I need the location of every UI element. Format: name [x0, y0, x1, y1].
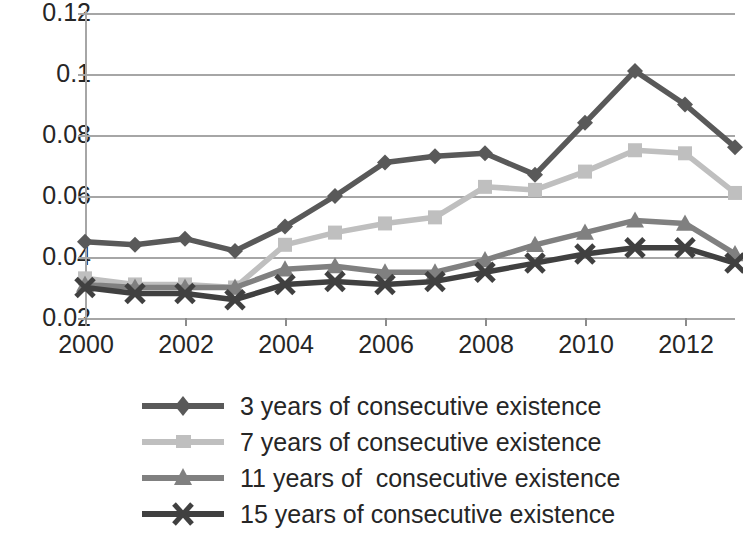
x-axis-label-2010: 2010 — [541, 330, 631, 358]
x-tick-2006 — [385, 318, 387, 326]
x-axis-label-2012: 2012 — [641, 330, 731, 358]
series-plot — [85, 13, 735, 318]
plot-area — [85, 13, 735, 318]
legend-item-2: 11 years of consecutive existence — [140, 460, 700, 496]
legend-marker-triangle-icon — [140, 463, 226, 493]
x-tick-2008 — [485, 318, 487, 326]
x-tick-2002 — [185, 318, 187, 326]
legend-item-0: 3 years of consecutive existence — [140, 388, 700, 424]
legend-item-3: 15 years of consecutive existence — [140, 496, 700, 532]
x-axis-label-2000: 2000 — [41, 330, 131, 358]
x-axis-label-2008: 2008 — [441, 330, 531, 358]
x-tick-2000 — [85, 318, 87, 326]
legend-label-1: 7 years of consecutive existence — [240, 427, 601, 457]
x-axis-label-2004: 2004 — [241, 330, 331, 358]
x-tick-2010 — [585, 318, 587, 326]
legend-item-1: 7 years of consecutive existence — [140, 424, 700, 460]
x-tick-2012 — [685, 318, 687, 326]
legend-label-0: 3 years of consecutive existence — [240, 391, 601, 421]
legend-label-2: 11 years of consecutive existence — [240, 463, 620, 493]
legend-marker-square-icon — [140, 427, 226, 457]
chart-legend: 3 years of consecutive existence 7 years… — [140, 388, 700, 532]
x-axis-label-2002: 2002 — [141, 330, 231, 358]
legend-label-3: 15 years of consecutive existence — [240, 499, 615, 529]
legend-marker-diamond-icon — [140, 391, 226, 421]
line-chart: 0.12 0.1 0.08 0.06 0.04 0.02 2000 2002 2… — [0, 0, 743, 548]
x-axis-label-2006: 2006 — [341, 330, 431, 358]
gridline-0.02 — [85, 318, 735, 320]
legend-marker-x-icon — [140, 499, 226, 529]
series-0 — [77, 63, 743, 259]
x-tick-2004 — [285, 318, 287, 326]
